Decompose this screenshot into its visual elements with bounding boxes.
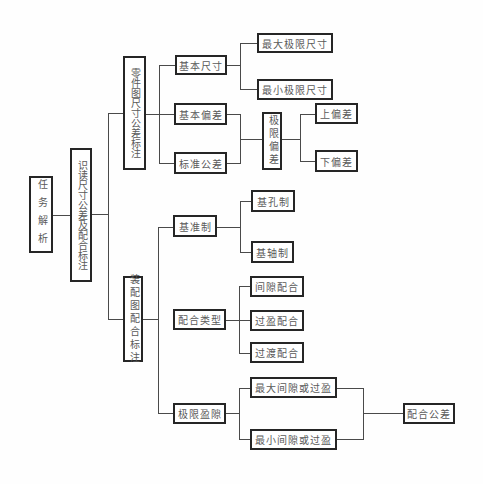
diagram-canvas: 任务解析 识读尺寸公差及配合标注 零件图尺寸公差标注 装配图配合标注 基本尺寸 …: [0, 0, 483, 484]
node-limit-deviation: 极限偏差: [262, 112, 282, 170]
connector: [363, 413, 403, 414]
connector: [300, 161, 315, 162]
connector: [240, 201, 251, 202]
node-limit-clearance: 极限盈隙: [173, 403, 226, 424]
node-assembly-drawing-fit: 装配图配合标注: [123, 276, 143, 362]
connector: [227, 163, 240, 164]
node-min-clearance-interference: 最小间隙或过盈: [250, 429, 337, 450]
connector: [108, 113, 109, 320]
connector: [240, 201, 241, 253]
connector: [53, 215, 70, 216]
connector: [239, 320, 250, 321]
connector: [239, 388, 240, 440]
connector: [159, 163, 174, 164]
node-fit-system: 基准制: [173, 215, 217, 237]
connector: [239, 388, 250, 389]
node-max-clearance-interference: 最大间隙或过盈: [250, 377, 337, 398]
connector: [239, 439, 250, 440]
node-hole-basis: 基孔制: [251, 190, 295, 212]
connector: [108, 319, 123, 320]
connector: [300, 114, 301, 162]
node-clearance-fit: 间隙配合: [250, 276, 304, 297]
connector: [227, 65, 240, 66]
connector: [239, 353, 250, 354]
node-upper-deviation: 上偏差: [315, 103, 358, 124]
connector: [240, 252, 251, 253]
connector: [158, 227, 173, 228]
connector: [240, 43, 241, 90]
node-max-limit-size: 最大极限尺寸: [257, 33, 333, 53]
connector: [240, 89, 257, 90]
node-fit-tolerance: 配合公差: [403, 403, 455, 424]
connector: [146, 114, 174, 115]
connector: [143, 319, 158, 320]
node-standard-tolerance: 标准公差: [174, 152, 227, 174]
node-fundamental-deviation: 基本偏差: [174, 103, 227, 125]
connector: [92, 214, 108, 215]
node-part-drawing-tolerance: 零件图尺寸公差标注: [123, 56, 146, 170]
connector: [363, 388, 364, 440]
node-task-analysis: 任务解析: [29, 176, 53, 253]
node-basic-size: 基本尺寸: [175, 55, 227, 75]
node-shaft-basis: 基轴制: [251, 241, 294, 263]
connector: [108, 113, 123, 114]
connector: [300, 114, 315, 115]
connector: [240, 43, 257, 44]
connector: [159, 65, 175, 66]
connector: [217, 227, 240, 228]
connector: [158, 413, 173, 414]
connector: [239, 286, 250, 287]
node-min-limit-size: 最小极限尺寸: [257, 79, 333, 100]
node-transition-fit: 过渡配合: [250, 342, 304, 363]
connector: [282, 139, 300, 140]
connector: [337, 439, 363, 440]
connector: [240, 139, 262, 140]
connector: [227, 114, 240, 115]
connector: [159, 65, 160, 164]
node-interference-fit: 过盈配合: [250, 310, 304, 331]
node-fit-type: 配合类型: [173, 309, 226, 330]
node-read-tolerance-fit: 识读尺寸公差及配合标注: [70, 148, 92, 282]
connector: [226, 413, 239, 414]
node-lower-deviation: 下偏差: [315, 150, 358, 172]
connector: [226, 320, 239, 321]
connector: [158, 227, 159, 414]
connector: [337, 388, 363, 389]
